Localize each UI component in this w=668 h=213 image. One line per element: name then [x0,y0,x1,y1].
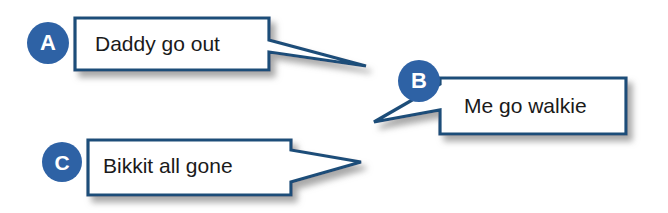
bubble-label-badge-c: C [42,142,82,182]
bubble-text-c: Bikkit all gone [103,155,233,176]
bubble-label-badge-b: B [398,60,440,102]
figure-canvas: A Daddy go out B Me go walkie C Bikkit a… [0,0,668,213]
bubble-text-b: Me go walkie [464,95,587,116]
bubble-label-badge-a: A [27,22,69,64]
bubble-text-a: Daddy go out [95,33,220,54]
